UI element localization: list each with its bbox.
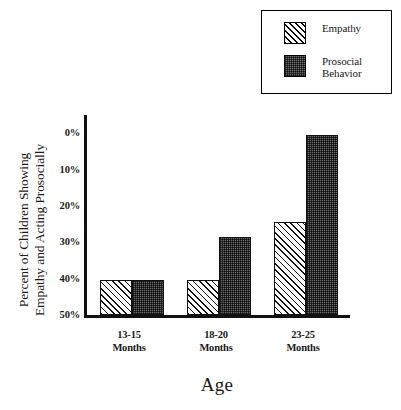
- y-tick-0: 50%: [44, 310, 80, 320]
- bar-group-23-25-months: [274, 115, 338, 315]
- bar-group-13-15-months: [100, 115, 164, 315]
- y-tick-1: 40%: [44, 274, 80, 284]
- bar-empathy-13-15: [100, 280, 132, 315]
- bar-group-18-20-months: [187, 115, 251, 315]
- chart-legend: Empathy Prosocial Behavior: [261, 10, 392, 94]
- dark-swatch-icon: [284, 55, 306, 77]
- y-tick-3: 20%: [44, 201, 80, 211]
- x-tick-18-20-months: 18-20 Months: [171, 328, 261, 354]
- x-axis-title: Age: [84, 374, 350, 396]
- legend-entry-empathy: Empathy: [284, 22, 361, 44]
- y-tick-5: 0%: [44, 128, 80, 138]
- bar-empathy-23-25: [274, 222, 306, 315]
- bar-prosocial-23-25: [306, 135, 338, 315]
- x-axis-tick-labels: 13-15 Months 18-20 Months 23-25 Months: [84, 328, 350, 362]
- x-axis-line: [84, 315, 350, 318]
- legend-entry-prosocial: Prosocial Behavior: [284, 55, 362, 79]
- y-tick-4: 10%: [44, 165, 80, 175]
- bar-groups: [87, 115, 350, 315]
- legend-label-empathy: Empathy: [322, 22, 361, 34]
- legend-label-prosocial: Prosocial Behavior: [322, 55, 362, 79]
- bar-empathy-18-20: [187, 280, 219, 315]
- plot-area: [84, 115, 350, 318]
- y-tick-2: 30%: [44, 237, 80, 247]
- bar-prosocial-13-15: [132, 280, 164, 315]
- hatched-swatch-icon: [284, 22, 306, 44]
- x-tick-23-25-months: 23-25 Months: [258, 328, 348, 354]
- bar-prosocial-18-20: [219, 237, 251, 315]
- x-tick-13-15-months: 13-15 Months: [84, 328, 174, 354]
- y-axis-tick-labels: 50% 40% 30% 20% 10% 0%: [40, 115, 80, 318]
- bar-chart-figure: Empathy Prosocial Behavior Percent of Ch…: [0, 0, 401, 410]
